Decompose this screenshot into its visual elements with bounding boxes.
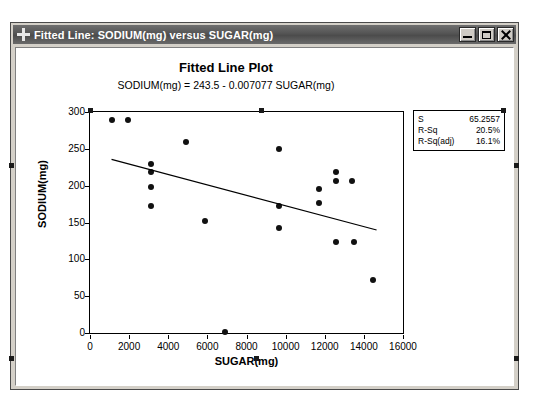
y-tick-label: 250: [55, 143, 85, 154]
x-tick-mark: [207, 335, 208, 339]
selection-handle-mid-left[interactable]: [9, 163, 14, 168]
window-title-bar[interactable]: Fitted Line: SODIUM(mg) versus SUGAR(mg): [13, 25, 516, 44]
selection-handle-bottom-right[interactable]: [514, 356, 519, 361]
y-tick-mark: [85, 259, 89, 260]
x-tick-label: 0: [68, 341, 112, 352]
statistics-box: S65.2557R-Sq20.5%R-Sq(adj)16.1%: [413, 110, 505, 151]
statistic-value: 20.5%: [476, 125, 500, 136]
y-tick-mark: [85, 223, 89, 224]
statistic-label: R-Sq(adj): [418, 136, 454, 147]
x-tick-label: 16000: [381, 341, 425, 352]
fitted-line-plot-window: Fitted Line: SODIUM(mg) versus SUGAR(mg)…: [10, 22, 519, 390]
x-tick-label: 4000: [146, 341, 190, 352]
y-tick-mark: [85, 186, 89, 187]
selection-handle-top-center[interactable]: [259, 108, 264, 113]
y-tick-mark: [85, 333, 89, 334]
selection-handle-mid-right[interactable]: [514, 163, 519, 168]
statistic-label: R-Sq: [418, 125, 437, 136]
statistic-value: 65.2557: [469, 114, 500, 125]
regression-line: [90, 112, 403, 333]
maximize-button[interactable]: [478, 27, 495, 42]
statistic-value: 16.1%: [476, 136, 500, 147]
chart-title: Fitted Line Plot: [16, 60, 436, 75]
y-axis-ticks: 050100150200250300: [51, 111, 85, 334]
y-tick-label: 100: [55, 253, 85, 264]
y-tick-label: 150: [55, 217, 85, 228]
statistic-label: S: [418, 114, 424, 125]
close-button[interactable]: [497, 27, 514, 42]
x-tick-label: 14000: [342, 341, 386, 352]
window-title: Fitted Line: SODIUM(mg) versus SUGAR(mg): [34, 29, 459, 41]
x-tick-mark: [364, 335, 365, 339]
y-tick-mark: [85, 296, 89, 297]
x-tick-label: 6000: [185, 341, 229, 352]
fitted-line-chart: Fitted Line Plot SODIUM(mg) = 243.5 - 0.…: [16, 48, 514, 386]
statistic-row: R-Sq(adj)16.1%: [418, 136, 500, 147]
selection-handle-bottom-left[interactable]: [9, 356, 14, 361]
chart-equation-subtitle: SODIUM(mg) = 243.5 - 0.007077 SUGAR(mg): [16, 79, 436, 91]
statistic-row: R-Sq20.5%: [418, 125, 500, 136]
selection-handle-top-right[interactable]: [501, 108, 506, 113]
x-tick-mark: [403, 335, 404, 339]
y-tick-label: 300: [55, 106, 85, 117]
y-tick-label: 50: [55, 290, 85, 301]
x-tick-mark: [168, 335, 169, 339]
x-tick-mark: [247, 335, 248, 339]
x-tick-label: 10000: [264, 341, 308, 352]
minimize-button[interactable]: [459, 27, 476, 42]
x-tick-label: 8000: [225, 341, 269, 352]
x-tick-label: 2000: [107, 341, 151, 352]
x-axis-title: SUGAR(mg): [89, 355, 404, 367]
x-tick-mark: [286, 335, 287, 339]
x-tick-mark: [129, 335, 130, 339]
statistic-row: S65.2557: [418, 114, 500, 125]
y-tick-label: 200: [55, 180, 85, 191]
y-tick-label: 0: [55, 327, 85, 338]
graph-client-area[interactable]: Fitted Line Plot SODIUM(mg) = 243.5 - 0.…: [15, 47, 514, 386]
selection-handle-top-left[interactable]: [88, 108, 93, 113]
selection-handle-bottom-center[interactable]: [254, 356, 259, 361]
y-tick-mark: [85, 149, 89, 150]
x-tick-mark: [325, 335, 326, 339]
crosshair-icon: [17, 28, 30, 41]
y-axis-title: SODIUM(mg): [36, 144, 48, 244]
x-tick-mark: [90, 335, 91, 339]
x-tick-label: 12000: [303, 341, 347, 352]
plot-area: [89, 111, 404, 334]
